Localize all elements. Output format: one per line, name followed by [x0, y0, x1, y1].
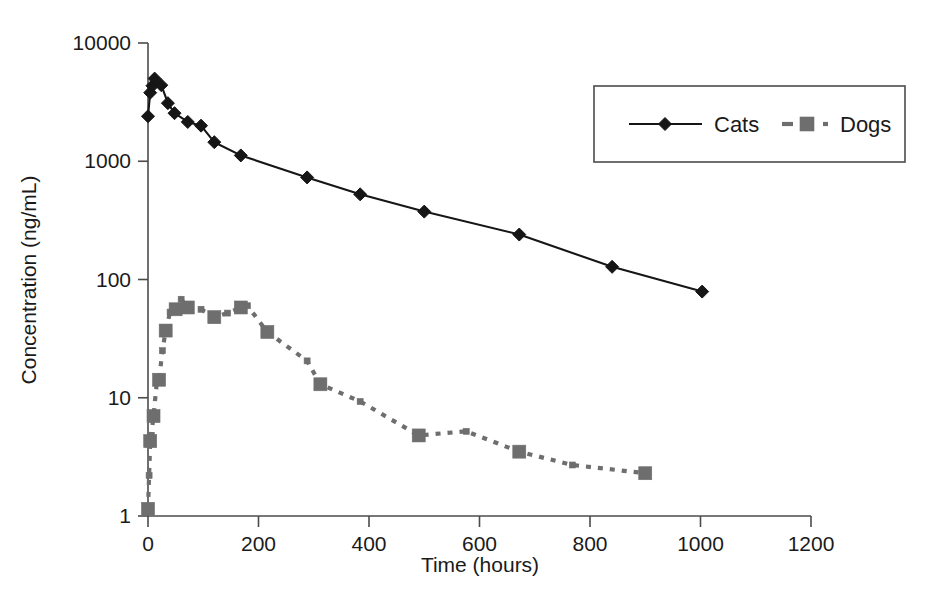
x-tick-label: 200: [241, 532, 276, 555]
data-point-marker: [168, 107, 181, 120]
chart-container: 110100100010000 020040060080010001200 Ti…: [0, 0, 941, 603]
data-point-marker: [169, 303, 182, 316]
data-point-marker: [198, 306, 204, 312]
data-point-marker: [142, 502, 155, 515]
data-point-marker: [181, 115, 194, 128]
data-point-marker: [354, 188, 367, 201]
y-axis-title: Concentration (ng/mL): [17, 176, 40, 385]
data-point-marker: [225, 310, 231, 316]
x-tick-label: 400: [351, 532, 386, 555]
data-point-marker: [696, 285, 709, 298]
data-point-marker: [513, 228, 526, 241]
data-point-marker: [261, 325, 274, 338]
data-point-marker: [412, 429, 425, 442]
data-point-marker: [147, 410, 160, 423]
data-point-marker: [418, 205, 431, 218]
data-point-marker: [304, 358, 310, 364]
data-point-marker: [244, 303, 250, 309]
data-point-marker: [639, 467, 652, 480]
y-tick-label: 10000: [73, 31, 131, 54]
x-tick-label: 800: [572, 532, 607, 555]
y-tick-label: 10: [108, 386, 131, 409]
data-point-marker: [569, 462, 575, 468]
x-axis-title: Time (hours): [421, 553, 539, 576]
x-axis-ticks: 020040060080010001200: [142, 516, 834, 555]
data-point-marker: [159, 324, 172, 337]
x-tick-label: 0: [142, 532, 154, 555]
x-tick-label: 1200: [788, 532, 835, 555]
legend-label-dogs: Dogs: [840, 112, 891, 137]
data-point-marker: [513, 445, 526, 458]
data-point-marker: [606, 260, 619, 273]
concentration-time-plot: 110100100010000 020040060080010001200 Ti…: [0, 0, 941, 603]
data-point-marker: [463, 428, 469, 434]
data-point-marker: [148, 432, 154, 438]
data-point-marker: [142, 110, 155, 123]
y-tick-label: 1000: [84, 149, 131, 172]
legend-marker-dogs: [800, 117, 814, 131]
data-point-marker: [153, 373, 166, 386]
data-point-marker: [234, 149, 247, 162]
data-point-marker: [159, 348, 165, 354]
data-point-marker: [181, 301, 194, 314]
data-point-marker: [208, 311, 221, 324]
series-line-dogs: [148, 299, 645, 509]
y-axis-ticks: 110100100010000: [73, 31, 148, 527]
y-tick-label: 100: [96, 268, 131, 291]
data-point-marker: [161, 97, 174, 110]
y-tick-label: 1: [119, 504, 131, 527]
data-point-marker: [357, 398, 363, 404]
data-point-marker: [146, 473, 152, 479]
x-tick-label: 600: [462, 532, 497, 555]
data-point-marker: [314, 378, 327, 391]
legend-label-cats: Cats: [714, 112, 759, 137]
x-tick-label: 1000: [677, 532, 724, 555]
data-point-marker: [301, 171, 314, 184]
